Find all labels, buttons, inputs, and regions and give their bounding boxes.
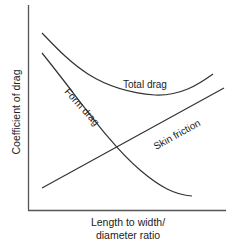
total-drag-label: Total drag xyxy=(123,79,167,90)
x-axis-label-line2: diameter ratio xyxy=(96,229,160,241)
x-axis-label-line1: Length to width/ xyxy=(91,216,165,228)
y-axis-label: Coefficient of drag xyxy=(10,69,22,154)
form-drag-curve xyxy=(42,53,192,196)
form-drag-label: Form drag xyxy=(63,86,102,128)
drag-diagram: Total drag Form drag Skin friction Coeff… xyxy=(0,0,240,249)
skin-friction-label: Skin friction xyxy=(152,117,203,152)
skin-friction-line xyxy=(42,88,224,188)
